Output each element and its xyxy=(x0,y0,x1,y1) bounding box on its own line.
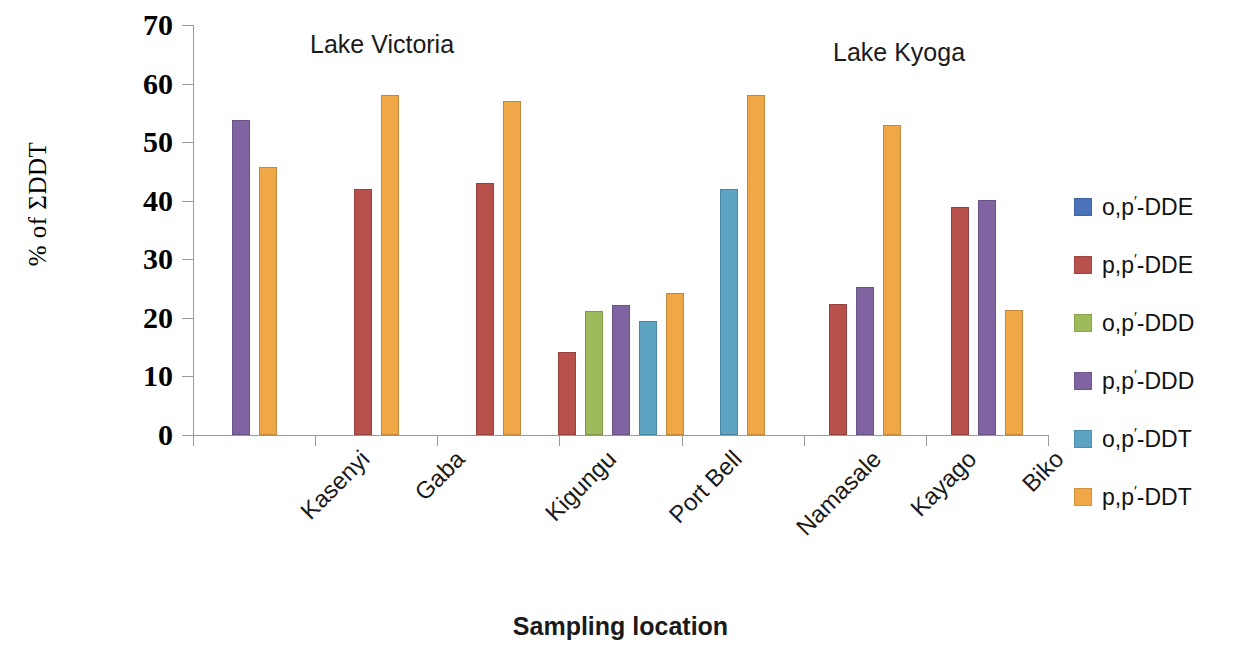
legend-item-label: o,p′-DDE xyxy=(1102,194,1193,221)
x-axis-label-namasale: Namasale xyxy=(790,445,886,541)
y-axis-tick-label: 30 xyxy=(143,244,173,274)
bar-chart: % of ΣDDT 010203040506070 Lake Victoria … xyxy=(0,0,1242,655)
bar-group xyxy=(558,25,684,435)
y-axis-tick: 70 xyxy=(182,25,193,26)
x-axis-label-kayago: Kayago xyxy=(905,445,982,522)
annotation-lake-victoria: Lake Victoria xyxy=(310,30,454,59)
bar[interactable] xyxy=(978,200,996,435)
x-axis-label-gaba: Gaba xyxy=(409,445,470,506)
legend-item[interactable]: p,p′-DDT xyxy=(1074,468,1239,526)
bar-group xyxy=(720,25,765,435)
legend-item-label: p,p′-DDE xyxy=(1102,252,1193,279)
y-axis-tick-label: 40 xyxy=(143,186,173,216)
bar[interactable] xyxy=(259,167,277,435)
x-axis-title: Sampling location xyxy=(193,612,1048,641)
bar[interactable] xyxy=(503,101,521,435)
legend-item[interactable]: p,p′-DDE xyxy=(1074,236,1239,294)
legend-swatch-icon xyxy=(1074,430,1092,448)
bar[interactable] xyxy=(354,189,372,435)
bar[interactable] xyxy=(476,183,494,435)
y-axis-tick-label: 0 xyxy=(158,420,173,450)
x-axis-label-kasenyi: Kasenyi xyxy=(295,445,375,525)
bar-group xyxy=(354,25,399,435)
y-axis-line xyxy=(193,25,194,435)
x-axis-label-port-bell: Port Bell xyxy=(663,445,747,529)
y-axis-tick: 20 xyxy=(182,318,193,319)
y-axis-tick-label: 60 xyxy=(143,69,173,99)
bar[interactable] xyxy=(558,352,576,435)
bar[interactable] xyxy=(856,287,874,435)
chart-legend: o,p′-DDEp,p′-DDEo,p′-DDDp,p′-DDDo,p′-DDT… xyxy=(1074,178,1239,526)
y-axis-tick-label: 70 xyxy=(143,10,173,40)
y-axis-tick: 0 xyxy=(182,435,193,436)
x-axis-line xyxy=(193,435,1048,436)
y-axis-tick-label: 50 xyxy=(143,127,173,157)
bar[interactable] xyxy=(666,293,684,435)
legend-swatch-icon xyxy=(1074,198,1092,216)
legend-item-label: p,p′-DDT xyxy=(1102,484,1192,511)
bar-group xyxy=(829,25,901,435)
bar[interactable] xyxy=(232,120,250,435)
bar-group xyxy=(476,25,521,435)
bar[interactable] xyxy=(585,311,603,435)
y-axis-tick: 40 xyxy=(182,201,193,202)
bar[interactable] xyxy=(951,207,969,435)
y-axis-title: % of ΣDDT xyxy=(24,114,52,294)
bar[interactable] xyxy=(639,321,657,435)
legend-swatch-icon xyxy=(1074,488,1092,506)
x-axis-label-biko: Biko xyxy=(1017,445,1070,498)
legend-item[interactable]: o,p′-DDT xyxy=(1074,410,1239,468)
bar[interactable] xyxy=(829,304,847,435)
x-axis-label-kigungu: Kigungu xyxy=(540,445,622,527)
y-axis-tick: 30 xyxy=(182,259,193,260)
bar[interactable] xyxy=(381,95,399,435)
legend-item[interactable]: o,p′-DDE xyxy=(1074,178,1239,236)
legend-item[interactable]: o,p′-DDD xyxy=(1074,294,1239,352)
bar[interactable] xyxy=(747,95,765,435)
y-axis-tick-label: 10 xyxy=(143,361,173,391)
legend-item-label: o,p′-DDD xyxy=(1102,310,1194,337)
plot-area: 010203040506070 xyxy=(193,25,1048,435)
x-axis-category-labels: KasenyiGabaKigunguPort BellNamasaleKayag… xyxy=(193,445,1048,595)
bar[interactable] xyxy=(720,189,738,435)
legend-item[interactable]: p,p′-DDD xyxy=(1074,352,1239,410)
legend-swatch-icon xyxy=(1074,372,1092,390)
bar-group xyxy=(951,25,1023,435)
y-axis-tick: 60 xyxy=(182,84,193,85)
legend-swatch-icon xyxy=(1074,314,1092,332)
bar-group xyxy=(232,25,277,435)
annotation-lake-kyoga: Lake Kyoga xyxy=(833,38,965,67)
y-axis-tick: 10 xyxy=(182,376,193,377)
bar[interactable] xyxy=(883,125,901,435)
bar[interactable] xyxy=(1005,310,1023,435)
y-axis-tick-label: 20 xyxy=(143,303,173,333)
legend-item-label: p,p′-DDD xyxy=(1102,368,1194,395)
legend-swatch-icon xyxy=(1074,256,1092,274)
bar[interactable] xyxy=(612,305,630,435)
y-axis-tick: 50 xyxy=(182,142,193,143)
legend-item-label: o,p′-DDT xyxy=(1102,426,1192,453)
